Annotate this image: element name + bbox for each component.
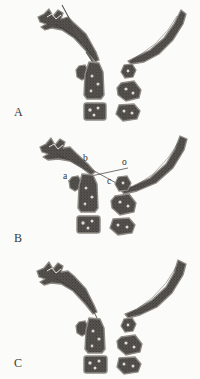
central-segment-lower (84, 103, 106, 120)
right-segment-top (115, 176, 131, 191)
right-segment-bottom (110, 218, 135, 235)
panel-c-illustration (0, 252, 200, 379)
central-segment-upper (84, 62, 104, 99)
central-segment-lower (84, 356, 107, 373)
curved-element (125, 260, 186, 318)
right-segment-bottom (116, 104, 140, 121)
measurement-label-o: o (122, 157, 127, 167)
right-segment-top (121, 64, 136, 78)
right-segment-top (121, 318, 136, 332)
panel-letter-a: A (14, 105, 23, 120)
curved-element (128, 10, 186, 64)
figure-root: A (0, 0, 200, 379)
curved-element (121, 136, 187, 194)
panel-b-illustration: a b c o (0, 126, 200, 254)
panel-a: A (0, 0, 200, 128)
right-segment-middle (117, 81, 141, 101)
right-segment-middle (117, 335, 142, 355)
branching-element (37, 262, 97, 314)
panel-a-illustration (0, 0, 200, 128)
panel-c: C (0, 252, 200, 379)
right-segment-bottom (117, 357, 141, 374)
measurement-label-c: c (107, 176, 111, 186)
right-segment-middle (111, 194, 136, 215)
central-segment-upper (78, 174, 98, 212)
measurement-label-a: a (63, 171, 68, 181)
panel-b: a b c o B (0, 126, 200, 254)
panel-letter-b: B (14, 231, 22, 246)
central-segment-lower (77, 216, 100, 233)
central-segment-upper (85, 318, 105, 353)
panel-letter-c: C (14, 356, 22, 371)
measurement-label-b: b (83, 153, 88, 163)
